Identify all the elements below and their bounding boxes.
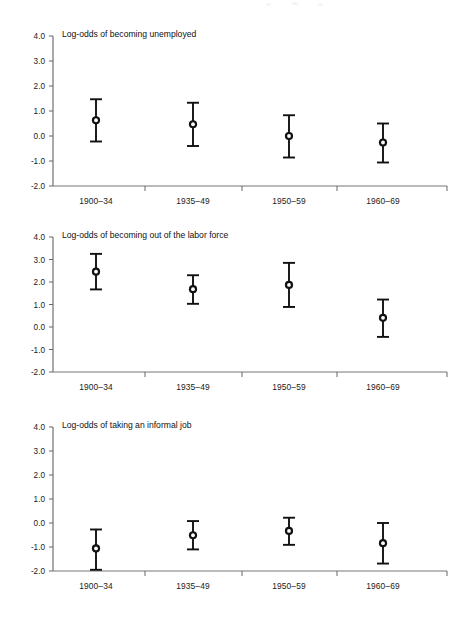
data-point-marker-center: [381, 541, 385, 545]
y-tick-label: -1.0: [31, 346, 46, 355]
data-point-marker-center: [287, 134, 291, 138]
panel-title: Log-odds of becoming unemployed: [62, 29, 196, 39]
y-tick-label: 1.0: [34, 495, 46, 504]
x-tick-label: 1935–49: [176, 581, 210, 591]
y-tick-label: -1.0: [31, 157, 46, 166]
data-point-marker-center: [287, 529, 291, 533]
x-tick-label: 1935–49: [176, 196, 210, 206]
y-tick-label: 0.0: [34, 323, 46, 332]
y-tick-label: 1.0: [34, 301, 46, 310]
data-point-group: [90, 99, 102, 141]
data-point-marker-center: [191, 533, 195, 537]
y-tick-label: 3.0: [34, 57, 46, 66]
data-point-group: [377, 523, 389, 564]
data-point-group: [187, 521, 199, 549]
data-point-group: [90, 529, 102, 569]
y-tick-label: 2.0: [34, 278, 46, 287]
y-tick-label: 2.0: [34, 471, 46, 480]
y-tick-label: 4.0: [34, 32, 46, 41]
data-point-marker-center: [94, 118, 98, 122]
data-point-group: [283, 263, 295, 307]
y-tick-label: 3.0: [34, 447, 46, 456]
y-tick-label: 4.0: [34, 233, 46, 242]
plot-area: 4.03.02.01.00.0-1.0-2.01900–341935–49195…: [0, 222, 453, 418]
panel-title: Log-odds of taking an informal job: [62, 420, 192, 430]
data-point-marker-center: [94, 270, 98, 274]
chart-panel-out-of-labor-force: 4.03.02.01.00.0-1.0-2.01900–341935–49195…: [0, 222, 453, 418]
chart-panel-unemployed: 4.03.02.01.00.0-1.0-2.01900–341935–49195…: [0, 22, 453, 218]
x-tick-label: 1950–59: [272, 382, 306, 392]
figure-three-panel-log-odds: 4.03.02.01.00.0-1.0-2.01900–341935–49195…: [0, 0, 453, 618]
x-tick-label: 1900–34: [79, 382, 113, 392]
y-tick-label: -2.0: [31, 368, 46, 377]
data-point-marker-center: [381, 316, 385, 320]
y-tick-label: 2.0: [34, 82, 46, 91]
data-point-group: [283, 518, 295, 545]
data-point-marker-center: [191, 287, 195, 291]
y-tick-label: -2.0: [31, 182, 46, 191]
data-point-group: [377, 124, 389, 163]
x-tick-label: 1900–34: [79, 581, 113, 591]
data-point-group: [187, 275, 199, 304]
x-tick-label: 1960–69: [366, 196, 400, 206]
x-tick-label: 1950–59: [272, 581, 306, 591]
y-tick-label: 0.0: [34, 519, 46, 528]
y-tick-label: -1.0: [31, 543, 46, 552]
plot-area: 4.03.02.01.00.0-1.0-2.01900–341935–49195…: [0, 412, 453, 612]
plot-area: 4.03.02.01.00.0-1.0-2.01900–341935–49195…: [0, 22, 453, 218]
y-tick-label: 0.0: [34, 132, 46, 141]
scan-artifact: [266, 3, 271, 6]
x-tick-label: 1935–49: [176, 382, 210, 392]
scan-artifact: [318, 3, 323, 6]
x-tick-label: 1960–69: [366, 581, 400, 591]
x-tick-label: 1900–34: [79, 196, 113, 206]
x-tick-label: 1950–59: [272, 196, 306, 206]
y-tick-label: 3.0: [34, 256, 46, 265]
data-point-group: [283, 115, 295, 157]
y-tick-label: -2.0: [31, 567, 46, 576]
scan-artifact: [292, 2, 298, 5]
data-point-marker-center: [94, 547, 98, 551]
panel-title: Log-odds of becoming out of the labor fo…: [62, 230, 228, 240]
data-point-marker-center: [287, 283, 291, 287]
data-point-marker-center: [191, 122, 195, 126]
y-tick-label: 4.0: [34, 423, 46, 432]
data-point-group: [187, 103, 199, 146]
data-point-marker-center: [381, 141, 385, 145]
chart-panel-informal-job: 4.03.02.01.00.0-1.0-2.01900–341935–49195…: [0, 412, 453, 612]
y-tick-label: 1.0: [34, 107, 46, 116]
data-point-group: [90, 254, 102, 290]
x-tick-label: 1960–69: [366, 382, 400, 392]
data-point-group: [377, 300, 389, 337]
